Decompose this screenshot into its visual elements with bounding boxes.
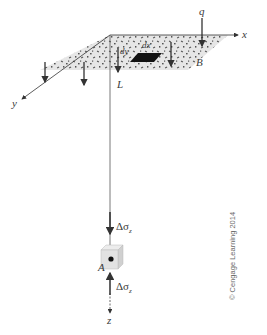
load-label-q: q bbox=[199, 6, 205, 17]
width-label-b: B bbox=[196, 57, 203, 68]
y-axis-label: y bbox=[12, 98, 17, 109]
stress-label-bottom: Δσz bbox=[116, 281, 132, 295]
z-axis-label: z bbox=[107, 315, 111, 326]
copyright-credit: © Cengage Learning 2014 bbox=[228, 212, 237, 300]
point-a-marker bbox=[108, 256, 113, 261]
point-label-a: A bbox=[98, 262, 105, 273]
x-axis-label: x bbox=[242, 29, 247, 40]
element-label-dx: dx bbox=[142, 41, 151, 50]
element-label-dy: dy bbox=[120, 47, 129, 56]
stress-label-top: Δσz bbox=[116, 221, 132, 235]
stress-diagram bbox=[0, 0, 267, 335]
length-label-l: L bbox=[117, 79, 123, 90]
